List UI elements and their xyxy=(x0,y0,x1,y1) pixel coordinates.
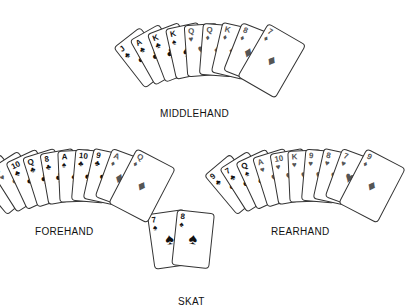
card-suit-icon: ♣ xyxy=(45,163,52,172)
forehand-hand: J♦♦J♥♥10♣♣Q♣♣8♣♣A♠♠10♣♣9♣♣A♦♦Q♦♦ xyxy=(4,120,154,215)
middlehand-label: MIDDLEHAND xyxy=(160,108,229,119)
card-suit-icon: ♣ xyxy=(138,45,147,55)
card-pip-icon: ♦ xyxy=(364,176,380,196)
skat-label: SKAT xyxy=(178,296,205,307)
card-suit-icon: ♥ xyxy=(188,36,193,44)
card-suit-icon: ♦ xyxy=(132,160,139,169)
card-suit-icon: ♣ xyxy=(214,178,223,188)
skat-hand: 7♠♠8♠♠ xyxy=(150,205,230,285)
card-suit-icon: ♥ xyxy=(292,161,297,169)
card-suit-icon: ♦ xyxy=(110,160,117,169)
card-suit-icon: ♣ xyxy=(228,173,237,183)
card-suit-icon: ♥ xyxy=(324,159,330,168)
card-suit-icon: ♥ xyxy=(308,160,313,168)
card-pip-icon: ♦ xyxy=(134,176,150,196)
card-suit-icon: ♠ xyxy=(171,38,177,47)
card-suit-icon: ♣ xyxy=(13,169,21,178)
card-suit-icon: ♠ xyxy=(62,161,67,169)
rearhand-hand: 9♣♣7♣♣Q♠♠A♥♥10♥♥K♥♥9♥♥8♥♥7♥♥9♦♦ xyxy=(234,120,384,215)
forehand-label: FOREHAND xyxy=(35,226,94,237)
card-suit-icon: ♦ xyxy=(205,34,210,42)
card-suit-icon: ♠ xyxy=(243,170,250,179)
card-skat-1: 8♠♠ xyxy=(171,209,215,269)
card-suit-icon: ♣ xyxy=(123,51,132,61)
card-suit-icon: ♦ xyxy=(222,33,228,42)
card-suit-icon: ♣ xyxy=(29,166,36,175)
card-suit-icon: ♥ xyxy=(275,163,281,172)
middlehand-hand: J♣♣A♣♣K♣♣K♠♠Q♥♥Q♦♦K♦♦8♦♦7♦♦ xyxy=(140,6,280,96)
card-suit-icon: ♥ xyxy=(259,166,266,175)
card-pip-icon: ♠ xyxy=(188,230,198,249)
card-suit-icon: ♠ xyxy=(152,224,157,233)
rearhand-label: REARHAND xyxy=(271,226,330,237)
card-suit-icon: ♥ xyxy=(0,173,7,182)
card-suit-icon: ♣ xyxy=(154,41,162,50)
card-suit-icon: ♥ xyxy=(340,160,347,169)
card-suit-icon: ♣ xyxy=(78,160,84,168)
card-suit-icon: ♦ xyxy=(362,160,369,169)
card-pip-icon: ♦ xyxy=(264,51,280,71)
card-suit-icon: ♣ xyxy=(94,159,101,168)
card-suit-icon: ♠ xyxy=(179,221,184,229)
card-suit-icon: ♦ xyxy=(239,34,246,43)
card-suit-icon: ♦ xyxy=(262,34,270,43)
